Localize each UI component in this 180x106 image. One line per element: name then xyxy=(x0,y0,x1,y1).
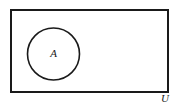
universal-set-rectangle xyxy=(11,10,168,92)
venn-diagram-canvas: A U xyxy=(0,0,180,106)
venn-diagram-figure: A U xyxy=(0,0,180,106)
universal-set-label: U xyxy=(161,92,170,104)
set-a-label: A xyxy=(49,47,57,59)
